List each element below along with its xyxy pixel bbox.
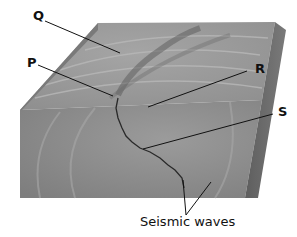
label-p: P: [27, 55, 37, 70]
label-s: S: [278, 104, 287, 119]
fault-block-diagram: Q P R S Seismic waves: [0, 0, 297, 237]
block-diagram-graphic: [0, 0, 297, 237]
label-q: Q: [33, 8, 44, 23]
caption-seismic-waves: Seismic waves: [140, 214, 235, 229]
label-r: R: [255, 61, 265, 76]
top-surface: [20, 22, 275, 110]
